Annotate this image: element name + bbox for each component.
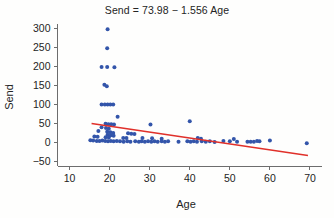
data-point (105, 84, 109, 88)
y-tick-label: 50 (39, 117, 51, 129)
x-axis-ticks: 10203040506070 (64, 166, 316, 184)
data-point (195, 140, 199, 144)
data-point (111, 102, 115, 106)
data-point (105, 46, 109, 50)
x-tick-label: 30 (144, 172, 156, 184)
data-point (128, 140, 132, 144)
data-point (232, 137, 236, 141)
y-tick-label: −50 (33, 155, 51, 167)
x-axis-title: Age (176, 198, 196, 210)
data-point (112, 134, 116, 138)
y-tick-label: 100 (33, 98, 51, 110)
y-tick-label: 250 (33, 41, 51, 53)
data-point (96, 129, 100, 133)
x-tick-label: 10 (64, 172, 76, 184)
data-point (177, 140, 181, 144)
data-point (166, 139, 170, 143)
data-point (112, 65, 116, 69)
x-tick-label: 40 (184, 172, 196, 184)
x-tick-label: 20 (104, 172, 116, 184)
data-point (305, 141, 309, 145)
data-point (100, 65, 104, 69)
data-point (118, 139, 122, 143)
x-tick-label: 70 (304, 172, 316, 184)
data-point (156, 140, 160, 144)
y-tick-label: 300 (33, 22, 51, 34)
y-axis-ticks: −50050100150200250300 (33, 22, 58, 167)
x-tick-label: 50 (224, 172, 236, 184)
data-point (107, 136, 111, 140)
data-point (116, 115, 120, 119)
data-point (228, 139, 232, 143)
data-point (106, 27, 110, 31)
y-tick-label: 200 (33, 60, 51, 72)
data-point (268, 139, 272, 143)
data-point (122, 140, 126, 144)
x-tick-label: 60 (264, 172, 276, 184)
axes-group (58, 24, 323, 166)
data-point (96, 135, 100, 139)
data-point (133, 139, 137, 143)
scatter-plot-figure: Send = 73.98 − 1.556 Age −50050100150200… (0, 0, 334, 218)
data-point (105, 65, 109, 69)
data-point (257, 139, 261, 143)
plot-canvas: −50050100150200250300 10203040506070 Age… (0, 0, 334, 218)
y-tick-label: 0 (45, 136, 51, 148)
data-point (132, 132, 136, 136)
data-point (91, 139, 95, 143)
y-axis-title: Send (3, 84, 15, 110)
data-point (235, 140, 239, 144)
y-tick-label: 150 (33, 79, 51, 91)
data-point (124, 136, 128, 140)
data-point (148, 123, 152, 127)
data-point (188, 119, 192, 123)
data-point (140, 136, 144, 140)
